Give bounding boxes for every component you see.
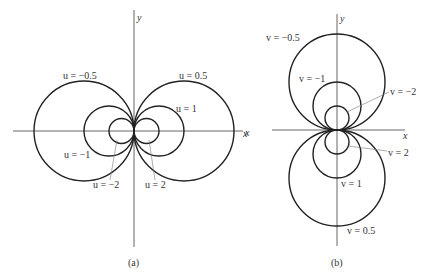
x-axis-label-b: x xyxy=(402,130,408,141)
leader-v-2 xyxy=(348,146,387,151)
label-u-1: u = 1 xyxy=(176,103,197,114)
label-v-2: v = 2 xyxy=(388,147,409,158)
y-axis-label-a: y xyxy=(136,12,142,23)
label-u-neg-2: u = −2 xyxy=(93,179,119,190)
caption-a: (a) xyxy=(128,257,139,269)
label-u-neg-1: u = −1 xyxy=(64,149,90,160)
label-v-neg-0-5: v = −0.5 xyxy=(266,32,300,43)
caption-b: (b) xyxy=(331,257,343,269)
y-axis-label-b: y xyxy=(339,13,345,24)
label-v-0-5: v = 0.5 xyxy=(347,225,375,236)
figure-b: x y x v = −0.5 v = −1 v = −2 v = 2 v = 1… xyxy=(244,13,416,269)
diagram-canvas: x y u = −0.5 u = 0.5 u = 1 u = −1 u = −2… xyxy=(0,0,437,277)
label-v-1: v = 1 xyxy=(341,178,362,189)
leader-v-neg-2 xyxy=(347,92,389,112)
label-u-neg-0-5: u = −0.5 xyxy=(63,70,97,81)
leader-u-2 xyxy=(149,140,155,180)
label-v-neg-2: v = −2 xyxy=(390,86,416,97)
x-axis-label-b-left: x xyxy=(244,127,250,138)
label-u-0-5: u = 0.5 xyxy=(179,70,207,81)
figure-a: x y u = −0.5 u = 0.5 u = 1 u = −1 u = −2… xyxy=(13,10,248,269)
label-u-2: u = 2 xyxy=(145,179,166,190)
leader-u-neg-2 xyxy=(110,140,117,180)
label-v-neg-1: v = −1 xyxy=(299,73,325,84)
